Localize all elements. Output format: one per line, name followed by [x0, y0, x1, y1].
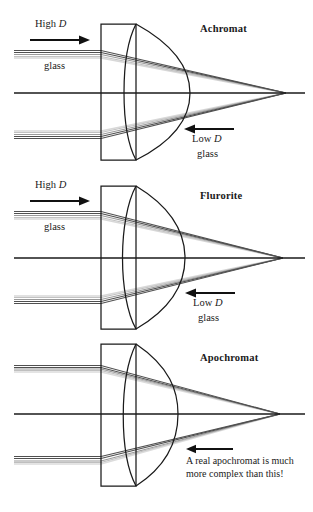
- high-d-glass-word-fluorite: glass: [44, 221, 65, 233]
- panel-title-achromat: Achromat: [200, 23, 247, 35]
- high-d-text: High: [35, 179, 59, 190]
- low-d-symbol: D: [214, 133, 222, 144]
- low-d-glass-outer-surface: [136, 344, 178, 486]
- panel-apochromat: Apochromat A real apochromat is much mor…: [0, 338, 313, 512]
- low-d-label-fluorite: Low D: [193, 297, 222, 309]
- low-d-glass-word-fluorite: glass: [198, 312, 219, 324]
- high-d-arrow-icon: [30, 36, 90, 45]
- low-d-glass-word-achromat: glass: [197, 148, 218, 160]
- low-d-text: Low: [192, 133, 214, 144]
- panel-title-fluorite: Flurorite: [200, 190, 242, 202]
- fluorite-optics-drawing: [0, 171, 313, 338]
- high-d-glass-element: [101, 344, 136, 486]
- low-d-label-achromat: Low D: [192, 133, 221, 145]
- cemented-interface-surface: [124, 24, 136, 160]
- apochromat-note: A real apochromat is much more complex t…: [186, 455, 304, 480]
- apochromat-optics-drawing: [0, 338, 313, 512]
- apochromat-dark-rays: [14, 366, 280, 459]
- high-d-label-fluorite: High D: [35, 179, 66, 191]
- high-d-arrow-icon: [30, 197, 90, 206]
- panel-fluorite: Flurorite High D glass Low D glass: [0, 171, 313, 338]
- panel-title-apochromat: Apochromat: [200, 352, 258, 364]
- high-d-glass-word-achromat: glass: [44, 60, 65, 72]
- cemented-interface-surface: [123, 344, 136, 486]
- high-d-label-achromat: High D: [35, 18, 66, 30]
- lens-correction-figure: Achromat High D glass Low D glass: [0, 0, 313, 512]
- high-d-text: High: [35, 18, 59, 29]
- low-d-glass-outer-surface: [136, 24, 190, 160]
- high-d-symbol: D: [59, 18, 67, 29]
- low-d-text: Low: [193, 297, 215, 308]
- high-d-glass-element: [101, 24, 136, 160]
- note-arrow-icon: [186, 445, 233, 453]
- low-d-symbol: D: [215, 297, 223, 308]
- high-d-symbol: D: [59, 179, 67, 190]
- panel-achromat: Achromat High D glass Low D glass: [0, 0, 313, 171]
